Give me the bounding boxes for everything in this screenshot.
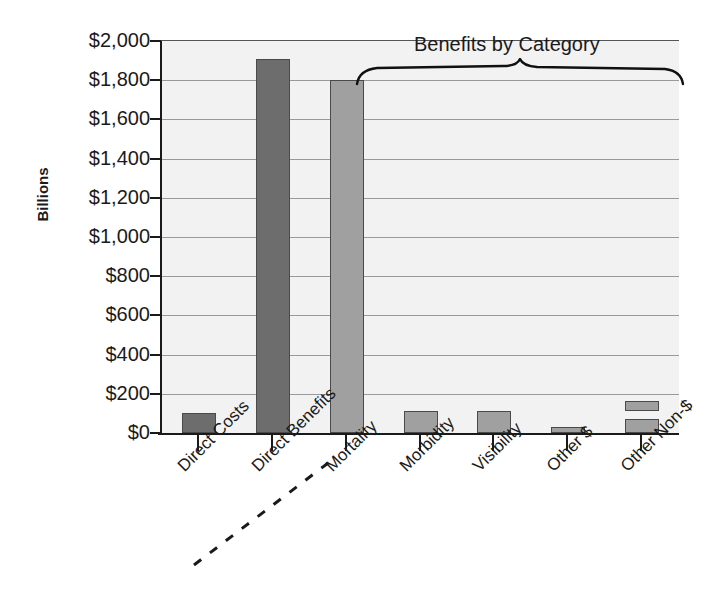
plot-area xyxy=(160,41,679,433)
y-axis-tick-label: $1,800 xyxy=(62,69,150,89)
bar xyxy=(330,80,364,433)
gridline xyxy=(162,276,679,277)
y-axis-tick-label: $0 xyxy=(62,422,150,442)
y-axis-tick-mark xyxy=(150,393,161,395)
y-axis-tick-label: $600 xyxy=(62,304,150,324)
gridline xyxy=(162,237,679,238)
bar-segment xyxy=(625,401,659,411)
y-axis-tick-mark xyxy=(150,40,161,42)
dashed-separator-icon xyxy=(186,455,386,575)
y-axis-tick-label: $1,600 xyxy=(62,108,150,128)
gridline xyxy=(162,394,679,395)
annotation-benefits-by-category: Benefits by Category xyxy=(414,33,600,56)
brace-icon xyxy=(355,58,685,88)
gridline xyxy=(162,119,679,120)
y-axis-tick-labels: $2,000$1,800$1,600$1,400$1,200$1,000$800… xyxy=(62,0,150,601)
y-axis-tick-label: $1,400 xyxy=(62,148,150,168)
y-axis-tick-label: $800 xyxy=(62,265,150,285)
y-axis-tick-mark xyxy=(150,432,161,434)
bar xyxy=(256,59,290,433)
y-axis-tick-mark xyxy=(150,354,161,356)
y-axis-tick-label: $2,000 xyxy=(62,30,150,50)
y-axis-tick-mark xyxy=(150,79,161,81)
y-axis-tick-mark xyxy=(150,118,161,120)
gridline xyxy=(162,315,679,316)
y-axis-tick-mark xyxy=(150,158,161,160)
y-axis-title: Billions xyxy=(34,135,51,255)
gridline xyxy=(162,159,679,160)
y-axis-tick-mark xyxy=(150,314,161,316)
gridline xyxy=(162,355,679,356)
y-axis-tick-mark xyxy=(150,197,161,199)
y-axis-tick-label: $1,000 xyxy=(62,226,150,246)
y-axis-tick-label: $200 xyxy=(62,383,150,403)
gridline xyxy=(162,198,679,199)
y-axis-tick-label: $1,200 xyxy=(62,187,150,207)
bar-chart: Billions $2,000$1,800$1,600$1,400$1,200$… xyxy=(0,0,706,601)
y-axis-tick-mark xyxy=(150,236,161,238)
y-axis-tick-mark xyxy=(150,275,161,277)
y-axis-tick-label: $400 xyxy=(62,344,150,364)
